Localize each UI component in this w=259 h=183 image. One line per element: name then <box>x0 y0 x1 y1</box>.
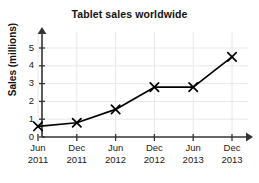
x-tick-label: Jun2013 <box>173 142 213 165</box>
grid-lines <box>38 32 248 137</box>
y-tick-label: 0 <box>22 131 34 142</box>
y-tick-label: 1 <box>22 113 34 124</box>
axis-lines <box>38 27 253 142</box>
x-tick-label-year: 2011 <box>18 154 58 166</box>
x-tick-label-month: Jun <box>173 142 213 154</box>
x-tick-label: Jun2011 <box>18 142 58 165</box>
x-tick-label-year: 2013 <box>212 154 252 166</box>
x-tick-label-month: Jun <box>18 142 58 154</box>
x-tick-label: Jun2012 <box>96 142 136 165</box>
y-tick-label: 4 <box>22 59 34 70</box>
y-axis-arrow <box>38 27 47 34</box>
y-tick-label: 3 <box>22 77 34 88</box>
x-tick-label-month: Jun <box>96 142 136 154</box>
data-line <box>38 57 232 126</box>
chart-container: Tablet sales worldwide Sales (millions) … <box>0 0 259 183</box>
x-tick-label-year: 2012 <box>96 154 136 166</box>
x-tick-label: Dec2011 <box>57 142 97 165</box>
y-tick-label: 2 <box>22 95 34 106</box>
x-tick-label-month: Dec <box>134 142 174 154</box>
x-axis-arrow <box>246 133 253 142</box>
axis-ticks <box>38 48 232 141</box>
x-tick-label-year: 2013 <box>173 154 213 166</box>
x-tick-label: Dec2013 <box>212 142 252 165</box>
y-tick-label: 5 <box>22 42 34 53</box>
x-tick-label-month: Dec <box>57 142 97 154</box>
x-tick-label: Dec2012 <box>134 142 174 165</box>
x-tick-label-month: Dec <box>212 142 252 154</box>
x-tick-label-year: 2011 <box>57 154 97 166</box>
x-tick-label-year: 2012 <box>134 154 174 166</box>
